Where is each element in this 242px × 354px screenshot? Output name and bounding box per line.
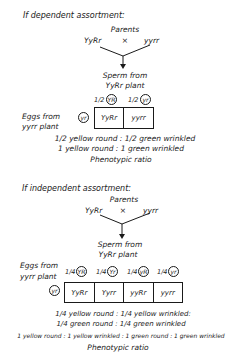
sperm-fraction: 1/4 [157, 268, 167, 276]
punnett-square: YyRr yyrr [94, 107, 154, 129]
parent-2-genotype: yyrr [144, 37, 159, 45]
ratio-whole: 1 yellow round : 1 yellow wrinkled : 1 g… [17, 333, 224, 339]
gamete-circle: YR [76, 266, 87, 277]
gamete-circle: YR [106, 94, 117, 105]
eggs-source: yyrr plant [20, 273, 57, 281]
ratio-fractions: 1/2 yellow round : 1/2 green wrinkled [55, 135, 196, 143]
parents-label: Parents [110, 196, 138, 204]
eggs-source: yyrr plant [22, 123, 59, 131]
eggs-label: Eggs from [22, 113, 60, 121]
independent-heading: If independent assortment: [22, 185, 131, 193]
cross-symbol: × [122, 37, 128, 45]
parent-1-genotype: YyRr [85, 207, 102, 215]
gamete-circle: yr [168, 266, 179, 277]
ratio-fractions-line-2: 1/4 green round : 1/4 green wrinkled [56, 321, 185, 328]
offspring-cell: yyrr [154, 283, 183, 302]
sperm-source: YyRr plant [99, 251, 138, 259]
gamete-circle: yr [140, 94, 151, 105]
parent-1-genotype: YyRr [84, 37, 101, 45]
sperm-fraction: 1/4 [127, 268, 137, 276]
egg-gamete-circle: yr [49, 285, 60, 296]
sperm-label: Sperm from [98, 241, 143, 249]
sperm-label: Sperm from [103, 72, 148, 80]
sperm-source: YyRr plant [106, 82, 145, 90]
parent-2-genotype: yyrr [143, 207, 158, 215]
offspring-cell: yyrr [124, 108, 153, 128]
dependent-heading: If dependent assortment: [23, 12, 125, 20]
ratio-caption: Phenotypic ratio [90, 156, 151, 164]
gamete-circle: Yr [107, 266, 118, 277]
sperm-fraction: 1/2 [128, 96, 138, 104]
offspring-cell: Yyrr [95, 283, 125, 302]
ratio-whole: 1 yellow round : 1 green wrinkled [58, 145, 184, 153]
ratio-fractions-line-1: 1/4 yellow round : 1/4 yellow wrinkled: [55, 311, 191, 318]
parents-label: Parents [111, 26, 139, 34]
ratio-caption: Phenotypic ratio [87, 344, 148, 352]
offspring-cell: YyRr [95, 108, 124, 128]
offspring-cell: YyRr [65, 283, 95, 302]
offspring-cell: yyRr [124, 283, 154, 302]
egg-gamete-circle: yr [78, 112, 89, 123]
sperm-fraction: 1/4 [96, 268, 106, 276]
cross-symbol: × [120, 207, 126, 215]
gamete-circle: yR [138, 266, 149, 277]
punnett-square: YyRr Yyrr yyRr yyrr [64, 282, 183, 303]
sperm-fraction: 1/2 [94, 96, 104, 104]
sperm-fraction: 1/4 [65, 268, 75, 276]
eggs-label: Eggs from [20, 262, 58, 270]
